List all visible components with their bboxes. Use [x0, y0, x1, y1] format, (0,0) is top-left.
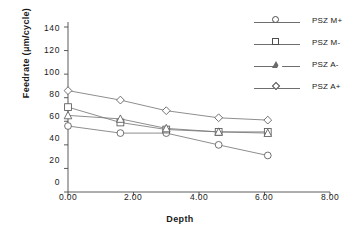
legend-label: PSZ A- — [312, 60, 339, 69]
legend-label: PSZ M+ — [312, 16, 342, 25]
legend-item-psz-m-plus[interactable]: PSZ M+ — [254, 12, 360, 34]
data-point-circle — [117, 130, 124, 137]
data-point-diamond — [215, 114, 223, 122]
data-point-diamond — [117, 96, 125, 104]
diamond-marker-icon — [273, 83, 282, 92]
legend-label: PSZ M- — [312, 38, 340, 47]
square-marker-icon — [272, 38, 281, 47]
data-point-square — [65, 104, 72, 111]
legend-item-psz-m-minus[interactable]: PSZ M- — [254, 34, 360, 56]
triangle-marker-icon — [272, 61, 281, 70]
legend-item-psz-a-plus[interactable]: PSZ A+ — [254, 78, 360, 100]
legend-label: PSZ A+ — [312, 82, 341, 91]
legend-item-psz-a-minus[interactable]: PSZ A- — [254, 56, 360, 78]
data-point-triangle — [64, 111, 72, 118]
data-point-diamond — [162, 107, 170, 115]
chart-figure: Feedrate (μm/cycle) 140 120 100 80 60 40… — [0, 0, 360, 239]
data-point-circle — [65, 123, 72, 130]
data-point-circle — [264, 152, 271, 159]
chart-legend: PSZ M+ PSZ M- PSZ A- PSZ A+ — [254, 12, 360, 100]
data-point-circle — [215, 141, 222, 148]
data-point-diamond — [64, 87, 72, 95]
circle-marker-icon — [272, 16, 281, 25]
data-point-diamond — [264, 116, 272, 124]
